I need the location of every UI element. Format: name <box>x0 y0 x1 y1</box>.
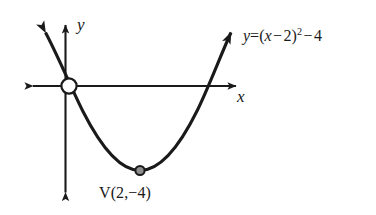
parabola-curve <box>46 33 232 171</box>
x-axis-label: x <box>237 88 245 105</box>
x-intercept-open-circle-marker <box>61 78 76 93</box>
equation-label: y=(x−2)2−4 <box>243 28 322 44</box>
equation-equals: = <box>250 27 259 44</box>
equation-minus-1: − <box>273 27 282 44</box>
vertex-label: V(2,−4) <box>99 185 151 201</box>
y-axis-label: y <box>77 16 85 33</box>
vertex-point-marker <box>135 166 144 175</box>
equation-exponent: 2 <box>297 26 302 37</box>
equation-constant: 4 <box>314 27 322 44</box>
equation-inner-const: 2 <box>284 27 292 44</box>
math-figure: y x y=(x−2)2−4 V(2,−4) <box>0 0 376 215</box>
equation-minus-2: − <box>304 27 313 44</box>
equation-inner-var: x <box>264 27 271 44</box>
